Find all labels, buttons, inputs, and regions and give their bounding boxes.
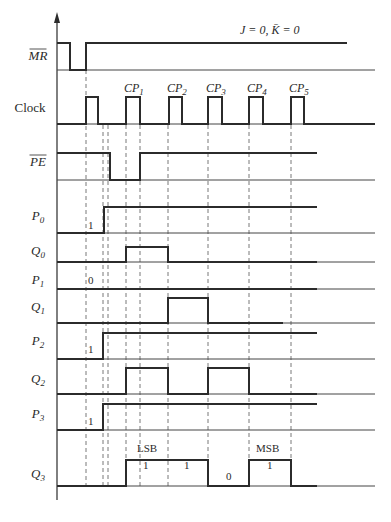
subscript: 1 bbox=[139, 87, 144, 97]
waveform bbox=[57, 333, 317, 359]
axis-arrow-icon bbox=[54, 12, 60, 23]
cp-label-5: CP5 bbox=[289, 81, 309, 97]
signal-label: PE bbox=[29, 154, 46, 169]
waveform bbox=[57, 404, 317, 430]
preset-value: 1 bbox=[88, 219, 94, 231]
signal-p1: P10 bbox=[31, 272, 375, 289]
cp-label-2: CP2 bbox=[167, 81, 187, 97]
signal-label: Q3 bbox=[31, 466, 45, 483]
subscript: 2 bbox=[182, 87, 187, 97]
signal-rows: MRClockPEP01Q0P10Q1P21Q2P31Q3 bbox=[14, 43, 375, 486]
signal-q2: Q2 bbox=[31, 368, 375, 394]
lsb-label: LSB bbox=[137, 442, 157, 454]
preset-value: 1 bbox=[88, 415, 94, 427]
subscript: 3 bbox=[39, 473, 45, 483]
q3-bit-1: 1 bbox=[143, 459, 149, 471]
cp-label-1: CP1 bbox=[124, 81, 144, 97]
signal-q3: Q3 bbox=[31, 460, 375, 486]
subscript: 0 bbox=[40, 215, 45, 225]
signal-label: P2 bbox=[31, 333, 45, 350]
timing-diagram: MRClockPEP01Q0P10Q1P21Q2P31Q3 J = 0, K̄ … bbox=[0, 0, 391, 522]
signal-pe: PE bbox=[29, 153, 375, 180]
signal-label: P3 bbox=[31, 406, 45, 423]
signal-clock: Clock bbox=[14, 97, 375, 124]
signal-label: Q0 bbox=[31, 243, 45, 260]
subscript: 2 bbox=[40, 340, 45, 350]
signal-label: P0 bbox=[31, 208, 45, 225]
clock-pulse-labels: CP1CP2CP3CP4CP5 bbox=[124, 81, 309, 97]
signal-mr: MR bbox=[28, 43, 375, 70]
subscript: 4 bbox=[262, 87, 267, 97]
waveform bbox=[57, 368, 317, 394]
signal-q1: Q1 bbox=[31, 298, 375, 323]
subscript: 1 bbox=[40, 306, 45, 316]
preset-value: 1 bbox=[88, 343, 94, 355]
q3-bit-3: 0 bbox=[226, 470, 232, 482]
waveform bbox=[57, 153, 317, 180]
waveform bbox=[57, 97, 375, 124]
subscript: 2 bbox=[40, 378, 45, 388]
waveform bbox=[57, 43, 347, 70]
subscript: 5 bbox=[304, 87, 309, 97]
subscript: 3 bbox=[39, 413, 45, 423]
signal-q0: Q0 bbox=[31, 243, 375, 262]
msb-label: MSB bbox=[256, 442, 279, 454]
signal-p0: P01 bbox=[31, 207, 375, 233]
signal-label: Q2 bbox=[31, 371, 45, 388]
signal-label: P1 bbox=[31, 272, 44, 289]
waveform bbox=[57, 247, 317, 262]
cp-label-4: CP4 bbox=[247, 81, 267, 97]
waveform bbox=[57, 207, 317, 233]
signal-label: Clock bbox=[14, 100, 46, 115]
dashed-guides bbox=[86, 70, 291, 487]
q3-bit-4: 1 bbox=[267, 459, 273, 471]
subscript: 3 bbox=[220, 87, 226, 97]
signal-label: MR bbox=[28, 48, 48, 63]
q3-bit-2: 1 bbox=[184, 459, 190, 471]
signal-label: Q1 bbox=[31, 299, 45, 316]
signal-p3: P31 bbox=[31, 404, 375, 430]
signal-p2: P21 bbox=[31, 333, 375, 359]
subscript: 1 bbox=[40, 279, 45, 289]
cp-label-3: CP3 bbox=[206, 81, 226, 97]
subscript: 0 bbox=[40, 250, 45, 260]
jk-annotation: J = 0, K̄ = 0 bbox=[240, 23, 300, 37]
preset-value: 0 bbox=[88, 274, 94, 286]
